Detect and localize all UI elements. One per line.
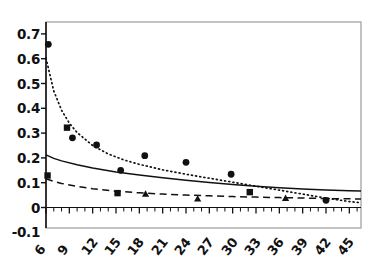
data-point-square — [247, 189, 253, 195]
dotted-fit-curve — [46, 58, 361, 203]
y-tick-label: 0.7 — [0, 26, 40, 42]
y-tick-label: 0.2 — [0, 150, 40, 166]
y-tick-label: -0.1 — [0, 224, 40, 240]
chart-container: 0.70.60.50.40.30.20.10-0.1 6912151821242… — [0, 0, 373, 258]
y-tick-label: 0 — [0, 200, 40, 216]
data-point-circle — [117, 167, 124, 174]
y-tick-label: 0.4 — [0, 100, 40, 116]
y-tick-label: 0.6 — [0, 51, 40, 67]
data-point-circle — [323, 197, 330, 204]
circle-markers — [45, 41, 329, 204]
solid-fit-curve — [46, 155, 361, 191]
data-point-circle — [228, 171, 235, 178]
data-point-square — [64, 124, 70, 130]
data-point-circle — [69, 134, 76, 141]
y-tick-label: 0.3 — [0, 125, 40, 141]
y-tick-label: 0.5 — [0, 76, 40, 92]
data-point-circle — [141, 152, 148, 159]
square-markers — [44, 124, 253, 196]
plot-frame — [46, 22, 361, 228]
triangle-markers — [142, 190, 289, 201]
data-point-square — [114, 190, 120, 196]
y-tick-label: 0.1 — [0, 175, 40, 191]
data-point-circle — [183, 159, 190, 166]
data-point-circle — [45, 41, 52, 48]
data-point-circle — [93, 142, 100, 149]
data-point-square — [44, 172, 50, 178]
plot-canvas — [0, 0, 373, 258]
